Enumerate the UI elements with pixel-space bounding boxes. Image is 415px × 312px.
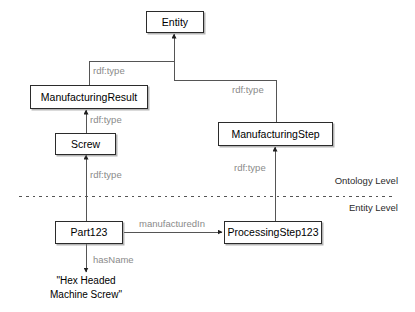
literal-value-line1: "Hex Headed bbox=[16, 274, 156, 288]
literal-value: "Hex Headed Machine Screw" bbox=[16, 274, 156, 302]
node-screw-label: Screw bbox=[71, 139, 100, 150]
edge-label-part123-processingstep123: manufacturedIn bbox=[139, 219, 205, 229]
node-entity-label: Entity bbox=[162, 17, 188, 28]
edge-label-manufacturingstep-entity: rdf:type bbox=[232, 85, 264, 95]
node-screw[interactable]: Screw bbox=[55, 133, 116, 155]
node-part123-label: Part123 bbox=[71, 227, 108, 238]
ontology-level-label: Ontology Level bbox=[268, 176, 398, 186]
node-entity[interactable]: Entity bbox=[146, 11, 204, 33]
node-part123[interactable]: Part123 bbox=[55, 221, 123, 244]
edges-layer bbox=[0, 0, 415, 312]
node-manufacturingstep-label: ManufacturingStep bbox=[231, 129, 319, 140]
edge-label-screw-manufacturingresult: rdf:type bbox=[90, 115, 122, 125]
edge-label-part123-screw: rdf:type bbox=[90, 170, 122, 180]
node-manufacturingstep[interactable]: ManufacturingStep bbox=[218, 122, 333, 146]
edge-label-processingstep123-manufacturingstep: rdf:type bbox=[234, 163, 266, 173]
edge-label-manufacturingresult-entity: rdf:type bbox=[93, 66, 125, 76]
entity-level-label: Entity Level bbox=[268, 203, 398, 213]
edge-label-part123-literal: hasName bbox=[93, 255, 134, 265]
diagram-canvas: Entity ManufacturingResult Screw Manufac… bbox=[0, 0, 415, 312]
edge-manufacturingresult-entity bbox=[89, 34, 174, 85]
node-processingstep123-label: ProcessingStep123 bbox=[227, 227, 318, 238]
node-processingstep123[interactable]: ProcessingStep123 bbox=[224, 221, 322, 244]
node-manufacturingresult[interactable]: ManufacturingResult bbox=[30, 85, 148, 109]
node-manufacturingresult-label: ManufacturingResult bbox=[41, 92, 137, 103]
literal-value-line2: Machine Screw" bbox=[16, 288, 156, 302]
